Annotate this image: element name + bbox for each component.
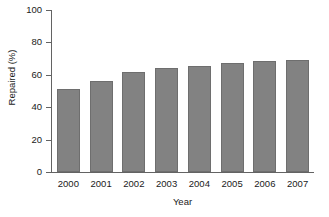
- y-axis-tick-label: 80: [31, 37, 42, 47]
- y-axis-tick: [46, 10, 51, 11]
- x-axis-tick-label: 2007: [281, 178, 314, 189]
- bar-2003: [155, 68, 178, 172]
- bar-chart-figure: Repaired (%) Year 020406080100 200020012…: [0, 0, 329, 217]
- y-axis-tick: [46, 172, 51, 173]
- y-axis-tick: [46, 75, 51, 76]
- y-axis-tick-label: 0: [37, 167, 42, 177]
- x-axis-tick-label: 2003: [150, 178, 183, 189]
- bar-2006: [253, 61, 276, 172]
- y-axis-tick-label: 100: [26, 5, 42, 15]
- x-axis-tick-label: 2005: [216, 178, 249, 189]
- x-axis-title: Year: [51, 196, 314, 207]
- y-axis-tick-label: 20: [31, 135, 42, 145]
- plot-area: [52, 10, 314, 172]
- y-axis-tick-label: 40: [31, 102, 42, 112]
- x-axis-line: [51, 172, 314, 173]
- y-axis-tick: [46, 42, 51, 43]
- x-axis-tick-label: 2002: [118, 178, 151, 189]
- caption-sliver: [0, 210, 329, 217]
- y-axis-tick: [46, 107, 51, 108]
- x-axis-tick-label: 2001: [85, 178, 118, 189]
- x-axis-tick-label: 2000: [52, 178, 85, 189]
- x-axis-tick-label: 2004: [183, 178, 216, 189]
- bar-2000: [57, 89, 80, 172]
- bar-2002: [122, 72, 145, 172]
- y-axis-tick: [46, 140, 51, 141]
- bar-2001: [90, 81, 113, 172]
- y-axis-tick-label: 60: [31, 70, 42, 80]
- bar-2004: [188, 66, 211, 172]
- x-axis-tick-label: 2006: [249, 178, 282, 189]
- bar-2007: [286, 60, 309, 172]
- bar-2005: [221, 63, 244, 172]
- y-axis-title: Repaired (%): [6, 23, 17, 133]
